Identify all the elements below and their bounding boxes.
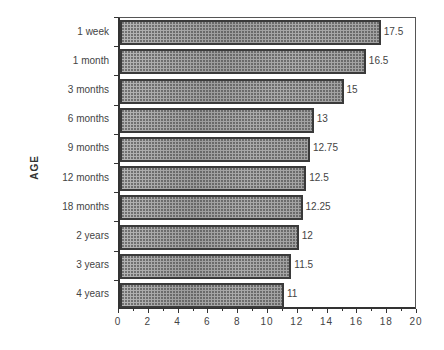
x-tick-label: 4	[168, 316, 188, 327]
y-axis-label: AGE	[29, 155, 40, 180]
x-tick-label: 2	[138, 316, 158, 327]
y-tick	[114, 280, 118, 281]
x-tick	[207, 309, 208, 313]
category-label: 12 months	[62, 172, 109, 183]
x-minor-tick	[371, 309, 372, 311]
x-tick-label: 6	[197, 316, 217, 327]
category-label: 1 month	[73, 55, 109, 66]
x-tick	[118, 309, 119, 313]
x-tick	[267, 309, 268, 313]
category-label: 2 years	[76, 230, 109, 241]
category-label: 4 years	[76, 288, 109, 299]
bar-value-label: 11	[287, 288, 297, 299]
bar	[120, 79, 344, 104]
bar-value-label: 16.5	[369, 55, 388, 66]
x-minor-tick	[163, 309, 164, 311]
bar	[120, 195, 303, 220]
x-tick	[416, 309, 417, 313]
x-tick-label: 0	[108, 316, 128, 327]
bar	[120, 49, 366, 74]
x-tick	[297, 309, 298, 313]
bar-value-label: 12.75	[313, 142, 338, 153]
category-label: 3 months	[68, 84, 109, 95]
x-tick	[178, 309, 179, 313]
x-minor-tick	[133, 309, 134, 311]
x-minor-tick	[342, 309, 343, 311]
y-tick	[114, 251, 118, 252]
x-tick-label: 10	[257, 316, 277, 327]
category-label: 1 week	[77, 26, 109, 37]
x-tick-label: 8	[227, 316, 247, 327]
bar	[120, 108, 314, 133]
y-tick	[114, 134, 118, 135]
x-minor-tick	[282, 309, 283, 311]
x-minor-tick	[222, 309, 223, 311]
bar-value-label: 11.5	[294, 259, 313, 270]
bar	[120, 137, 310, 162]
x-minor-tick	[401, 309, 402, 311]
x-tick	[148, 309, 149, 313]
x-tick	[327, 309, 328, 313]
bar-value-label: 12.5	[309, 172, 328, 183]
bar	[120, 225, 299, 250]
y-tick	[114, 163, 118, 164]
category-label: 6 months	[68, 113, 109, 124]
y-tick	[114, 105, 118, 106]
category-label: 9 months	[68, 142, 109, 153]
y-tick	[114, 46, 118, 47]
y-tick	[114, 75, 118, 76]
x-tick-label: 20	[406, 316, 426, 327]
bar-value-label: 13	[317, 113, 328, 124]
bar-value-label: 17.5	[384, 26, 403, 37]
x-tick-label: 12	[287, 316, 307, 327]
y-tick	[114, 192, 118, 193]
x-tick	[356, 309, 357, 313]
x-tick-label: 14	[317, 316, 337, 327]
category-label: 18 months	[62, 201, 109, 212]
x-minor-tick	[193, 309, 194, 311]
bar-value-label: 12.25	[306, 201, 331, 212]
y-tick	[114, 221, 118, 222]
bar	[120, 166, 306, 191]
category-label: 3 years	[76, 259, 109, 270]
bar	[120, 20, 381, 45]
y-tick	[114, 17, 118, 18]
bar	[120, 283, 284, 308]
x-minor-tick	[312, 309, 313, 311]
x-tick	[386, 309, 387, 313]
x-tick-label: 16	[346, 316, 366, 327]
bar-value-label: 12	[302, 230, 313, 241]
x-minor-tick	[252, 309, 253, 311]
bar	[120, 254, 291, 279]
x-tick	[237, 309, 238, 313]
bar-value-label: 15	[347, 84, 358, 95]
x-tick-label: 18	[376, 316, 396, 327]
